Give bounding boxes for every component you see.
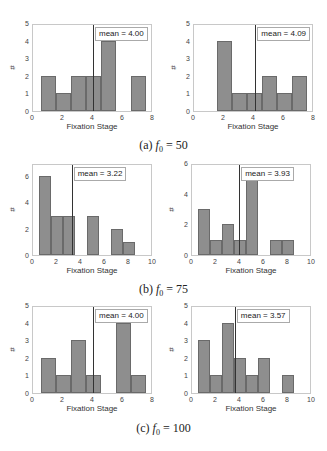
mean-line [239,165,240,255]
caption-a: (a) f0 = 50 [0,138,327,154]
mean-line [235,307,236,393]
histogram-bar [116,323,131,393]
x-tick-label: 0 [25,258,39,266]
x-tick-label: 2 [216,114,230,122]
x-axis-label: Fixation Stage [193,122,313,131]
x-tick-label: 10 [304,396,318,404]
histogram-bar [39,176,51,255]
x-tick-label: 8 [280,258,294,266]
x-tick-label: 10 [145,258,159,266]
x-tick-label: 4 [246,114,260,122]
histogram-bar [198,340,210,393]
y-tick-label: 1 [178,372,188,380]
x-tick-label: 0 [25,396,39,404]
histogram-bar [111,229,123,255]
histogram-b-left: mean = 3.2202460246810Fixation Stage# [32,164,152,256]
x-tick-label: 0 [184,258,198,266]
histogram-a-left: mean = 4.0001234502468Fixation Stage# [32,24,152,112]
histogram-bar [101,41,116,111]
y-tick-label: 1 [19,90,29,98]
mean-legend: mean = 4.00 [95,309,148,323]
x-tick-label: 8 [280,396,294,404]
mean-legend: mean = 4.00 [95,27,148,41]
y-tick-label: 2 [178,355,188,363]
histogram-bar [247,93,262,111]
y-tick-label: 6 [19,173,29,181]
y-tick-label: 5 [19,20,29,28]
y-tick-label: 4 [19,38,29,46]
x-axis-label: Fixation Stage [191,404,311,413]
mean-line [93,307,94,393]
x-tick-label: 4 [232,396,246,404]
histogram-bar [63,216,75,255]
histogram-a-right: mean = 4.0901234502468Fixation Stage# [193,24,313,112]
y-tick-label: 2 [180,73,190,81]
histogram-bar [56,375,71,393]
y-tick-label: 3 [180,55,190,63]
caption-a-eq: = 50 [163,138,188,152]
x-tick-label: 2 [208,396,222,404]
y-tick-label: 4 [19,320,29,328]
histogram-bar [131,76,146,111]
mean-line [255,25,256,111]
y-tick-label: 2 [19,355,29,363]
y-axis-label: # [167,347,176,351]
histogram-bar [232,93,247,111]
x-tick-label: 4 [232,258,246,266]
x-tick-label: 6 [276,114,290,122]
histogram-bar [131,375,146,393]
histogram-bar [210,375,222,393]
x-tick-label: 2 [55,396,69,404]
plot-area: mean = 3.57 [191,306,311,394]
histogram-bar [270,240,282,255]
mean-legend: mean = 3.22 [74,167,127,181]
x-tick-label: 6 [256,258,270,266]
x-tick-label: 2 [49,258,63,266]
x-tick-label: 2 [55,114,69,122]
histogram-bar [71,340,86,393]
x-tick-label: 6 [256,396,270,404]
x-tick-label: 0 [186,114,200,122]
caption-c: (c) f0 = 100 [0,421,327,437]
x-tick-label: 2 [208,258,222,266]
x-tick-label: 0 [184,396,198,404]
histogram-bar [217,41,232,111]
x-tick-label: 8 [306,114,320,122]
y-tick-label: 1 [180,90,190,98]
y-tick-label: 3 [178,337,188,345]
x-tick-label: 4 [85,396,99,404]
histogram-bar [51,216,63,255]
x-tick-label: 4 [85,114,99,122]
mean-legend: mean = 4.09 [257,27,310,41]
histogram-bar [246,375,258,393]
histogram-bar [277,93,292,111]
x-tick-label: 6 [97,258,111,266]
caption-a-label: (a) [139,138,152,152]
histogram-bar [222,323,234,393]
mean-line [72,165,73,255]
caption-b: (b) f0 = 75 [0,282,327,298]
y-tick-label: 2 [19,226,29,234]
x-tick-label: 6 [115,114,129,122]
y-tick-label: 2 [178,221,188,229]
histogram-bar [87,216,99,255]
x-axis-label: Fixation Stage [32,266,152,275]
x-tick-label: 10 [304,258,318,266]
y-tick-label: 6 [178,160,188,168]
x-tick-label: 8 [145,114,159,122]
histogram-bar [282,240,294,255]
mean-legend: mean = 3.93 [241,167,294,181]
plot-area: mean = 4.09 [193,24,313,112]
x-tick-label: 8 [145,396,159,404]
histogram-bar [282,375,294,393]
histogram-bar [246,178,258,255]
histogram-bar [198,209,210,255]
caption-b-label: (b) [139,282,153,296]
y-axis-label: # [167,207,176,211]
y-axis-label: # [8,347,17,351]
histogram-bar [292,76,307,111]
plot-area: mean = 4.00 [32,306,152,394]
histogram-bar [123,242,135,255]
y-tick-label: 3 [19,337,29,345]
y-tick-label: 2 [19,73,29,81]
